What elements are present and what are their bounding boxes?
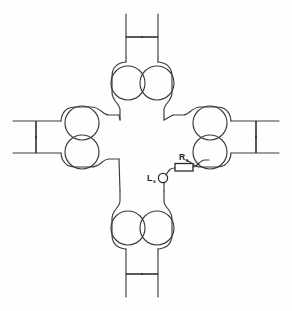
schematic-figure: R s L s [0,0,292,311]
branch-wire-inductor-to-resistor [166,168,175,175]
circuit-schematic-svg: R s L s [0,0,292,311]
series-ls-rs-branch [158,160,209,191]
bottom-arm-left-envelope [112,191,126,249]
left-arm-top-envelope [61,107,119,121]
right-arm [173,106,279,169]
resistor-label-subscript: s [186,157,189,163]
left-arm [13,106,119,169]
top-arm-left-envelope [112,62,126,120]
left-arm-bottom-envelope [61,153,119,167]
center-corner-lower-left [119,159,120,191]
center-corner-upper-right [164,115,173,120]
resistor-symbol-body [175,164,193,172]
bottom-arm [111,191,174,297]
resistor-label-symbol: R [179,152,185,162]
top-arm-right-envelope [158,62,172,120]
top-arm [111,14,174,120]
right-arm-top-envelope [173,107,231,121]
inductor-label-symbol: L [147,173,152,183]
bottom-arm-right-envelope [158,191,172,249]
inductor-label-subscript: s [153,178,156,184]
